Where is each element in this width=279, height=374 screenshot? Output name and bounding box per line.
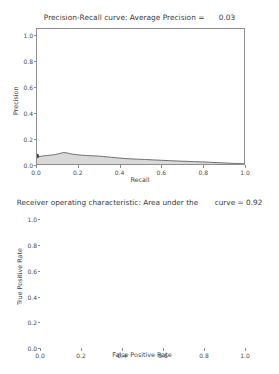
pr-ytick-label: 1.0 — [20, 31, 33, 38]
pr-ytick-label: 0.8 — [20, 57, 33, 64]
roc-ytick-mark — [38, 219, 41, 220]
figure-container: Precision-Recall curve: Average Precisio… — [0, 0, 279, 374]
pr-ytick-mark — [34, 113, 37, 114]
pr-ytick-mark — [34, 139, 37, 140]
pr-ytick-label: 0.2 — [20, 135, 33, 142]
roc-ytick-label: 0.4 — [24, 293, 37, 300]
roc-ytick-label: 0.0 — [24, 345, 37, 352]
roc-yticks: 0.00.20.40.60.81.0 — [0, 190, 279, 374]
pr-ytick-mark — [34, 35, 37, 36]
roc-ytick-label: 0.8 — [24, 242, 37, 249]
pr-ytick-mark — [34, 87, 37, 88]
pr-ytick-label: 0.0 — [20, 162, 33, 169]
pr-ytick-label: 0.4 — [20, 109, 33, 116]
roc-ytick-label: 0.2 — [24, 319, 37, 326]
pr-ytick-mark — [34, 165, 37, 166]
roc-ytick-label: 1.0 — [24, 216, 37, 223]
precision-recall-yticks: 0.00.20.40.60.81.0 — [0, 0, 279, 190]
pr-ytick-mark — [34, 61, 37, 62]
roc-ytick-mark — [38, 322, 41, 323]
roc-ytick-mark — [38, 348, 41, 349]
roc-ytick-mark — [38, 271, 41, 272]
roc-ytick-label: 0.6 — [24, 267, 37, 274]
roc-ytick-mark — [38, 245, 41, 246]
pr-ytick-label: 0.6 — [20, 83, 33, 90]
roc-ytick-mark — [38, 297, 41, 298]
